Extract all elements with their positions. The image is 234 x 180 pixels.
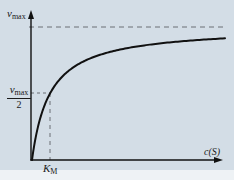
vmax-label: vmax	[7, 8, 26, 21]
y-axis-arrow-icon	[28, 10, 34, 19]
chart-canvas: vmax vmax 2 KM c(S)	[0, 0, 234, 180]
km-subscript: M	[50, 167, 57, 176]
x-axis-label: c(S)	[204, 147, 220, 157]
saturation-curve	[32, 38, 225, 160]
half-vmax-numerator: vmax	[7, 84, 31, 99]
plot-svg	[0, 0, 234, 180]
x-axis-arrow-icon	[214, 157, 223, 163]
half-vmax-label: vmax 2	[7, 84, 31, 110]
half-vmax-subscript: max	[15, 88, 29, 97]
km-label: KM	[43, 163, 57, 176]
vmax-subscript: max	[12, 12, 26, 21]
half-vmax-denominator: 2	[7, 99, 31, 110]
